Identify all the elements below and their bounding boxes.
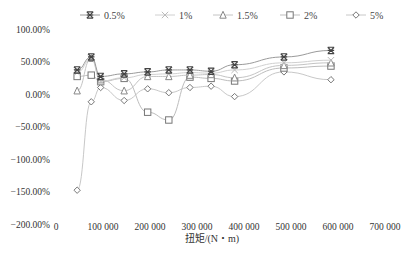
series-2pct xyxy=(74,63,334,123)
legend-label: 1.5% xyxy=(237,10,258,21)
x-tick-label: 400 000 xyxy=(229,222,260,232)
series-1_5pct xyxy=(74,55,334,94)
legend-item: 0.5% xyxy=(80,10,125,21)
y-axis: 100.00%50.00%0.00%−50.00%−100.00%−150.00… xyxy=(11,25,50,230)
x-axis: 0100 000200 000300 000400 000500 000600 … xyxy=(54,222,401,232)
square-marker-icon xyxy=(88,72,94,78)
diamond-marker-icon xyxy=(187,84,193,90)
y-tick-label: −100.00% xyxy=(11,155,50,165)
y-tick-label: −200.00% xyxy=(11,220,50,230)
square-marker-icon xyxy=(287,12,293,18)
legend-label: 0.5% xyxy=(104,10,125,21)
plot-area xyxy=(74,47,334,193)
line-chart: 0.5%1%1.5%2%5% 100.00%50.00%0.00%−50.00%… xyxy=(0,0,406,265)
x-tick-label: 700 000 xyxy=(370,222,401,232)
legend: 0.5%1%1.5%2%5% xyxy=(80,10,383,21)
y-tick-label: −50.00% xyxy=(15,122,50,132)
diamond-marker-icon xyxy=(353,12,359,18)
diamond-marker-icon xyxy=(208,83,214,89)
legend-label: 1% xyxy=(179,10,192,21)
legend-item: 5% xyxy=(346,10,383,21)
square-marker-icon xyxy=(144,109,150,115)
y-tick-label: −150.00% xyxy=(11,187,50,197)
y-tick-label: 0.00% xyxy=(25,90,50,100)
x-tick-label: 200 000 xyxy=(135,222,166,232)
asterisk-marker-icon xyxy=(87,12,93,18)
diamond-marker-icon xyxy=(121,97,127,103)
x-tick-label: 600 000 xyxy=(323,222,354,232)
x-tick-label: 0 xyxy=(54,222,59,232)
series-5pct xyxy=(74,69,334,194)
x-tick-label: 100 000 xyxy=(88,222,119,232)
asterisk-marker-icon xyxy=(281,54,287,60)
triangle-marker-icon xyxy=(74,87,80,94)
asterisk-marker-icon xyxy=(231,62,237,68)
x-tick-label: 300 000 xyxy=(182,222,213,232)
legend-item: 1% xyxy=(155,10,192,21)
diamond-marker-icon xyxy=(231,93,237,99)
series-line xyxy=(77,72,331,190)
diamond-marker-icon xyxy=(328,77,334,83)
legend-item: 1.5% xyxy=(213,10,258,21)
x-tick-label: 500 000 xyxy=(276,222,307,232)
y-tick-label: 50.00% xyxy=(21,57,50,67)
legend-label: 2% xyxy=(304,10,317,21)
legend-item: 2% xyxy=(280,10,317,21)
asterisk-marker-icon xyxy=(328,47,334,53)
y-tick-label: 100.00% xyxy=(16,25,50,35)
diamond-marker-icon xyxy=(166,90,172,96)
diamond-marker-icon xyxy=(144,86,150,92)
square-marker-icon xyxy=(166,117,172,123)
x-axis-title: 扭矩/(N・m) xyxy=(185,232,239,245)
legend-label: 5% xyxy=(370,10,383,21)
